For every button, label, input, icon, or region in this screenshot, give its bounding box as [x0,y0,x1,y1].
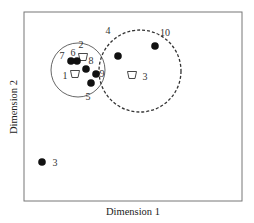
centroid-trapezoid-icon [128,72,137,79]
y-axis-label: Dimension 2 [8,80,19,134]
data-points: 768954103 [38,25,170,168]
centroid-trapezoid-icon [71,71,80,78]
data-point-marker [87,79,95,87]
centroid-label: 3 [143,71,148,82]
data-point-marker [151,42,159,50]
data-point-marker [38,158,46,166]
x-axis-label: Dimension 1 [106,206,160,217]
data-point-marker [114,52,122,60]
plot-frame [24,12,242,201]
centroid-label: 2 [79,39,84,50]
cluster-diagram: 213 768954103 Dimension 1 Dimension 2 [0,0,254,223]
data-point-marker [73,57,81,65]
centroid-label: 1 [63,70,68,81]
data-point-label: 9 [100,68,105,79]
data-point-label: 7 [60,50,65,61]
data-point-label: 10 [160,27,170,38]
data-point-label: 5 [86,91,91,102]
data-point-label: 4 [106,25,111,36]
data-point-label: 8 [89,55,94,66]
data-point-label: 3 [53,157,58,168]
dashed-cluster-circle [99,30,181,112]
data-point-label: 6 [71,47,76,58]
data-point-marker [82,65,90,73]
